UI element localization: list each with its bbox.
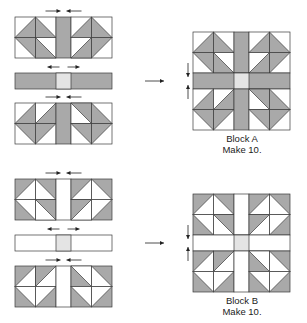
top-left-unit (15, 179, 56, 220)
bottom-left-unit (15, 103, 56, 144)
block-a-caption: Block A Make 10. (192, 133, 292, 155)
assembly-arrow-head (160, 79, 164, 83)
vertical-strip (234, 194, 249, 235)
top-left-unit (193, 32, 234, 73)
vertical-strip (56, 103, 71, 144)
press-arrow-left-head (67, 258, 71, 262)
center-square (56, 235, 71, 251)
press-arrow-right-head (57, 171, 61, 175)
top-right-unit (249, 32, 290, 73)
top-right-unit (249, 194, 290, 235)
top-right-unit (71, 179, 112, 220)
vertical-strip (234, 32, 249, 73)
top-right-unit (71, 17, 112, 58)
press-arrow-right-head (76, 227, 80, 231)
vertical-strip (56, 266, 71, 307)
assembled-block-b (193, 194, 290, 292)
center-square (56, 73, 71, 89)
bottom-right-unit (71, 266, 112, 307)
block-a-group (15, 9, 290, 144)
press-arrow-right-head (57, 95, 61, 99)
press-arrow-down-head (186, 235, 190, 239)
press-arrow-right-head (76, 65, 80, 69)
press-arrow-left-head (67, 171, 71, 175)
center-square (234, 235, 249, 251)
press-arrow-up-head (186, 247, 190, 251)
bottom-left-unit (193, 251, 234, 292)
block-b-caption: Block B Make 10. (192, 295, 292, 317)
block-a-label: Block A (192, 133, 292, 144)
vertical-strip (234, 251, 249, 292)
press-arrow-right-head (57, 258, 61, 262)
vertical-strip (56, 17, 71, 58)
diagram-canvas (0, 0, 307, 323)
block-a-note: Make 10. (192, 144, 292, 155)
press-arrow-left-head (67, 95, 71, 99)
top-left-unit (15, 17, 56, 58)
bottom-right-unit (71, 103, 112, 144)
assembly-arrow-head (160, 241, 164, 245)
center-square (234, 73, 249, 89)
vertical-strip (56, 179, 71, 220)
bottom-left-unit (15, 266, 56, 307)
block-b-note: Make 10. (192, 306, 292, 317)
vertical-strip (234, 89, 249, 130)
bottom-right-unit (249, 251, 290, 292)
block-b-label: Block B (192, 295, 292, 306)
press-arrow-down-head (186, 73, 190, 77)
quilt-assembly-diagram: Block A Make 10. Block B Make 10. (0, 0, 307, 323)
block-b-group (15, 171, 290, 307)
press-arrow-left-head (67, 9, 71, 13)
bottom-left-unit (193, 89, 234, 130)
bottom-right-unit (249, 89, 290, 130)
press-arrow-up-head (186, 85, 190, 89)
top-left-unit (193, 194, 234, 235)
press-arrow-left-head (48, 227, 52, 231)
press-arrow-left-head (48, 65, 52, 69)
press-arrow-right-head (57, 9, 61, 13)
assembled-block-a (193, 32, 290, 130)
